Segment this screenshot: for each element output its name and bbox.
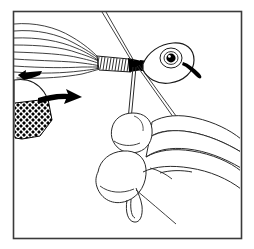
illustration-canvas (0, 0, 254, 249)
figure-root: Fly tying step illustration Black and wh… (0, 0, 254, 249)
painted-eye (160, 48, 182, 68)
hand-index-finger (111, 113, 152, 153)
thread-wrap (97, 56, 131, 72)
